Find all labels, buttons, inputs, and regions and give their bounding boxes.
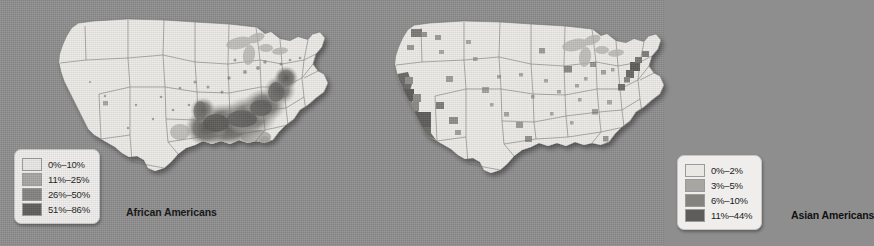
legend-row: 3%–5% (685, 178, 752, 192)
map-panel-african-americans: 0%–10% 11%–25% 26%–50% 51%–86% African A… (0, 0, 332, 246)
legend-swatch (22, 188, 42, 201)
legend-row: 0%–2% (685, 163, 752, 177)
legend-swatch (685, 209, 705, 222)
legend-swatch (22, 158, 42, 171)
legend-label: 6%–10% (711, 195, 748, 206)
legend-row: 11%–25% (22, 172, 90, 186)
map-caption-african-americans: African Americans (126, 206, 217, 218)
legend-row: 11%–44% (685, 208, 752, 222)
legend-african-americans: 0%–10% 11%–25% 26%–50% 51%–86% (14, 149, 100, 224)
legend-swatch (22, 173, 42, 186)
map-panel-asian-americans: 0%–2% 3%–5% 6%–10% 11%–44% Asian America… (332, 0, 664, 246)
legend-asian-americans: 0%–2% 3%–5% 6%–10% 11%–44% (677, 155, 762, 230)
legend-row: 51%–86% (22, 202, 90, 216)
legend-swatch (685, 194, 705, 207)
us-map-asian-americans (366, 14, 672, 190)
map-canvas-asian-americans (332, 0, 664, 246)
legend-label: 0%–2% (711, 165, 743, 176)
legend-label: 26%–50% (48, 189, 90, 200)
legend-row: 6%–10% (685, 193, 752, 207)
legend-label: 11%–44% (711, 210, 752, 221)
legend-swatch (685, 164, 705, 177)
map-caption-asian-americans: Asian Americans (791, 209, 874, 221)
legend-label: 3%–5% (711, 180, 743, 191)
legend-swatch (685, 179, 705, 192)
legend-row: 0%–10% (22, 157, 90, 171)
legend-label: 0%–10% (48, 159, 85, 170)
legend-label: 51%–86% (48, 204, 90, 215)
legend-label: 11%–25% (48, 174, 89, 185)
legend-swatch (22, 203, 42, 216)
legend-row: 26%–50% (22, 187, 90, 201)
